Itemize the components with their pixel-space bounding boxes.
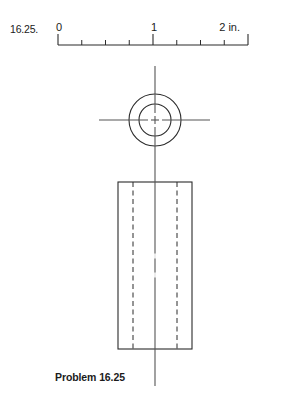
engineering-drawing-canvas (0, 0, 291, 402)
figure-page: 16.25. 0 1 2 in. Problem 16.25 (0, 0, 291, 402)
centerline-gap-upper (154, 254, 156, 259)
centerline-gap-lower (154, 273, 156, 278)
scale-bar (58, 34, 248, 45)
centerlines (99, 66, 210, 386)
figure-caption: Problem 16.25 (55, 372, 125, 383)
